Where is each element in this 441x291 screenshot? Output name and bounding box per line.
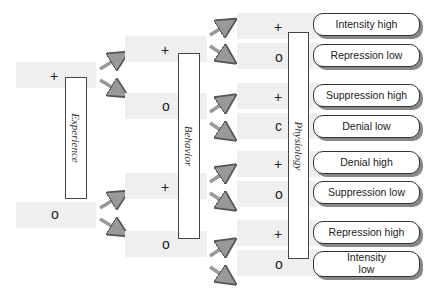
outcome-box: Suppression low xyxy=(313,181,420,204)
outcome-box: Repression high xyxy=(313,221,420,244)
outcome-box: Suppression high xyxy=(313,84,420,107)
outcome-box: Denial low xyxy=(313,115,420,138)
behavior-sign: + xyxy=(161,180,169,194)
physiology-sign: + xyxy=(274,90,282,104)
outcome-box: Denial high xyxy=(313,151,420,174)
outcome-box: Intensity high xyxy=(313,13,420,36)
behavior-sign: o xyxy=(162,99,170,113)
physiology-bar: Physiology xyxy=(288,32,309,259)
behavior-sign: + xyxy=(161,43,169,57)
outcome-box: Intensity low xyxy=(313,251,420,277)
behavior-sign: o xyxy=(162,237,170,251)
physiology-sign: o xyxy=(275,50,283,64)
physiology-sign: o xyxy=(275,257,283,271)
outcome-box: Repression low xyxy=(313,44,420,67)
physiology-sign: + xyxy=(274,20,282,34)
physiology-sign: + xyxy=(274,157,282,171)
experience-sign-o: o xyxy=(51,207,59,221)
physiology-sign: c xyxy=(275,119,282,133)
experience-bar: Experience xyxy=(65,77,87,199)
physiology-sign: + xyxy=(274,227,282,241)
experience-sign-plus: + xyxy=(50,69,58,83)
physiology-sign: o xyxy=(275,187,283,201)
behavior-bar: Behavior xyxy=(178,53,200,239)
